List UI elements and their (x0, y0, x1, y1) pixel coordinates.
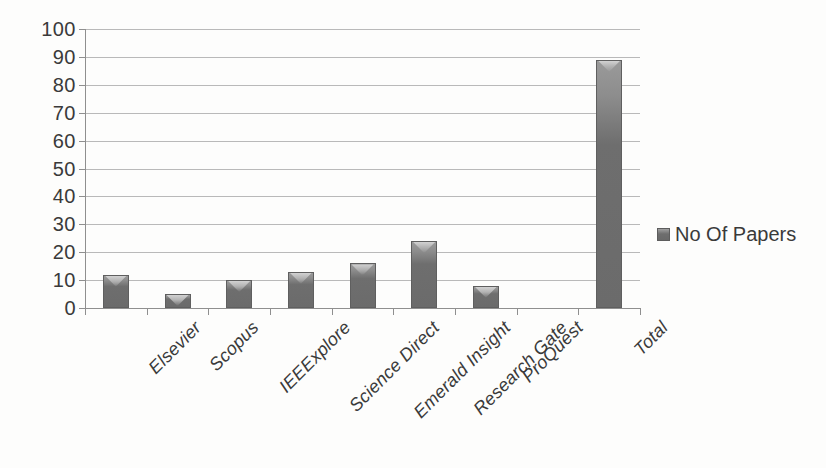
y-tick-label-0: 0 (64, 298, 76, 318)
legend: No Of Papers (657, 224, 796, 244)
y-tick-label-90: 90 (53, 47, 76, 67)
y-tick-label-50: 50 (53, 159, 76, 179)
x-tick-mark-5 (393, 308, 394, 315)
x-tick-mark-0 (85, 308, 86, 315)
gridline-60: 60 (85, 141, 640, 142)
x-tick-mark-4 (332, 308, 333, 315)
bar-chart: 1009080706050403020100 ElsevierScopusIEE… (0, 0, 826, 468)
x-tick-mark-2 (208, 308, 209, 315)
bar-ieeexplore (226, 280, 252, 308)
x-tick-mark-6 (455, 308, 456, 315)
y-axis-line (85, 29, 86, 309)
y-tick-label-30: 30 (53, 214, 76, 234)
gridline-90: 90 (85, 57, 640, 58)
x-tick-mark-7 (517, 308, 518, 315)
x-axis-label-elsevier: Elsevier (145, 318, 204, 377)
y-tick-label-80: 80 (53, 75, 76, 95)
x-axis-label-total: Total (631, 318, 672, 359)
x-axis-label-scopus: Scopus (205, 318, 261, 374)
legend-swatch-icon (657, 228, 670, 241)
gridline-20: 20 (85, 252, 640, 253)
x-axis-line (85, 308, 641, 309)
y-tick-label-40: 40 (53, 186, 76, 206)
x-axis-label-ieeexplore: IEEExplore (276, 318, 354, 396)
x-tick-mark-8 (578, 308, 579, 315)
bar-science-direct (288, 272, 314, 308)
gridline-70: 70 (85, 113, 640, 114)
gridline-30: 30 (85, 224, 640, 225)
bar-scopus (165, 294, 191, 308)
y-tick-label-70: 70 (53, 103, 76, 123)
y-tick-label-60: 60 (53, 131, 76, 151)
x-tick-mark-1 (147, 308, 148, 315)
gridline-80: 80 (85, 85, 640, 86)
plot-area: 1009080706050403020100 (85, 29, 640, 308)
y-tick-label-10: 10 (53, 270, 76, 290)
bar-emerald-insight (350, 263, 376, 308)
bar-proquest (473, 286, 499, 308)
x-tick-mark-3 (270, 308, 271, 315)
x-tick-mark-end (640, 308, 641, 315)
y-tick-label-100: 100 (41, 19, 76, 39)
gridline-50: 50 (85, 169, 640, 170)
gridline-100: 100 (85, 29, 640, 30)
legend-label: No Of Papers (675, 224, 796, 244)
bar-elsevier (103, 275, 129, 308)
gridline-40: 40 (85, 196, 640, 197)
bar-research-gate (411, 241, 437, 308)
bar-total (596, 60, 622, 308)
y-tick-label-20: 20 (53, 242, 76, 262)
